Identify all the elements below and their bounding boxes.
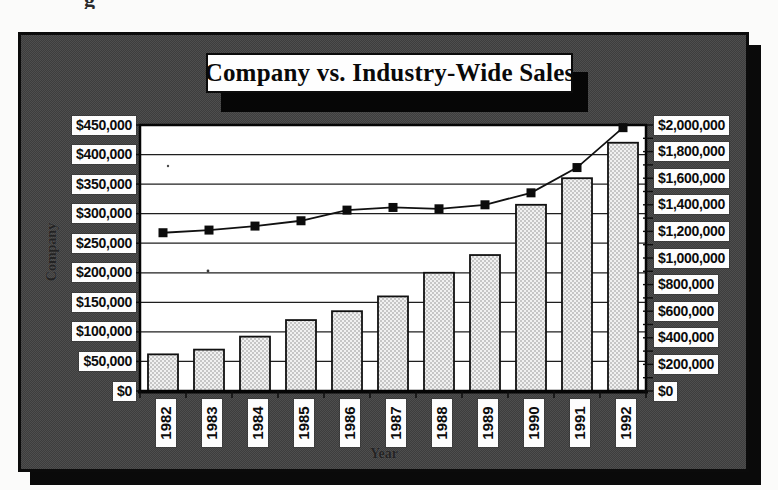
right-axis-label: $2,000,000 [654,116,729,135]
x-axis-title: Year [334,446,434,462]
bar-1983 [194,350,224,391]
right-axis-label: $1,400,000 [654,195,729,214]
bar-1985 [286,320,316,391]
bar-1988 [424,273,454,391]
year-label-1982: 1982 [156,399,176,447]
year-label-1986: 1986 [340,399,360,447]
chart-title-box: Company vs. Industry-Wide Sales [206,53,573,93]
line-marker-1983 [205,226,214,235]
year-label-1984: 1984 [248,399,268,447]
left-axis-label: $300,000 [72,204,136,223]
left-axis-title: Company [44,212,60,292]
bar-1990 [516,205,546,391]
line-marker-1992 [619,123,628,132]
year-label-1989: 1989 [478,399,498,447]
year-label-1987: 1987 [386,399,406,447]
bar-1987 [378,296,408,391]
left-axis-label: $350,000 [72,175,136,194]
bar-1992 [608,143,638,391]
right-axis-label: $200,000 [654,355,718,374]
left-axis-label: $150,000 [72,293,136,312]
chart-title: Company vs. Industry-Wide Sales [205,59,575,87]
year-label-1985: 1985 [294,399,314,447]
line-marker-1984 [251,222,260,231]
bar-1984 [240,337,270,391]
bar-1991 [562,178,592,391]
left-axis-label: $200,000 [72,263,136,282]
left-axis-label: $50,000 [79,352,136,371]
right-axis-label: $1,000,000 [654,249,729,268]
line-marker-1987 [389,203,398,212]
right-axis-label: $800,000 [654,275,718,294]
right-axis-label: $600,000 [654,302,718,321]
bar-1982 [148,354,178,391]
scan-speck [207,270,210,273]
left-axis-label: $450,000 [72,116,136,135]
line-marker-1989 [481,200,490,209]
line-marker-1988 [435,204,444,213]
left-axis-label: $250,000 [72,234,136,253]
line-marker-1991 [573,163,582,172]
year-label-1990: 1990 [524,399,544,447]
year-label-1988: 1988 [432,399,452,447]
year-label-1992: 1992 [616,399,636,447]
line-marker-1982 [159,228,168,237]
right-axis-label: $1,800,000 [654,142,729,161]
line-marker-1985 [297,216,306,225]
scanned-page: g Company vs. Industry-Wide Sales Compan… [0,0,778,490]
left-axis-label: $400,000 [72,145,136,164]
scan-speck [167,165,169,167]
year-label-1991: 1991 [570,399,590,447]
right-axis-label: $0 [654,382,677,401]
year-label-1983: 1983 [202,399,222,447]
left-axis-label: $0 [113,382,136,401]
right-axis-label: $1,600,000 [654,169,729,188]
right-axis-label: $1,200,000 [654,222,729,241]
right-axis-label: $400,000 [654,328,718,347]
bar-1986 [332,311,362,391]
left-axis-label: $100,000 [72,322,136,341]
bar-1989 [470,255,500,391]
line-marker-1986 [343,206,352,215]
line-marker-1990 [527,188,536,197]
